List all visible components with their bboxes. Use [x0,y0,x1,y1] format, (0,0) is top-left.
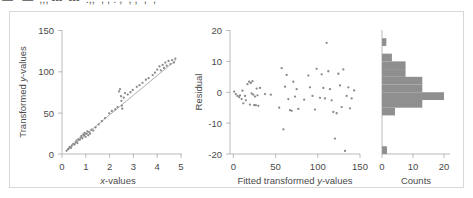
histogram-bar [382,85,422,93]
y-tick-label: 10 [211,56,222,67]
data-point [278,107,280,109]
data-point [314,108,316,110]
histogram-bar [382,54,392,62]
data-point [73,143,75,145]
data-point [326,42,328,44]
data-point [138,84,140,86]
x-tick-label: 5 [178,161,183,172]
data-point [332,111,334,113]
data-point [235,93,237,95]
data-point [92,129,94,131]
x-tick-label: 0 [59,161,64,172]
panel-transformed-fit: 150 100 50 0 0 1 2 3 4 [10,12,188,189]
data-point [264,93,266,95]
data-point [161,64,163,66]
data-point [87,134,89,136]
data-point [316,68,318,70]
data-point [173,61,175,63]
data-point [351,97,353,99]
data-point [118,90,120,92]
histogram-bar [382,100,422,108]
x-tick-label: 4 [155,161,160,172]
scatter-marks-residual [233,42,355,152]
data-point [287,98,289,100]
data-point [291,110,293,112]
data-point [307,74,309,76]
data-point [129,91,131,93]
data-point [116,106,118,108]
data-point [120,100,122,102]
data-point [339,84,341,86]
x-tick-label: 10 [408,161,419,172]
data-point [239,94,241,96]
x-tick-label: 50 [270,161,281,172]
scatter-marks-and-fit [65,57,176,152]
data-point [101,120,103,122]
x-tick-label: 150 [352,161,368,172]
histogram-bar [382,108,395,116]
data-point [342,68,344,70]
y-axis-ticks: 150 100 50 0 [38,25,62,160]
data-point [341,106,343,108]
data-point [347,86,349,88]
data-point [242,102,244,104]
figure-frame: 150 100 50 0 0 1 2 3 4 [9,11,464,188]
data-point [296,88,298,90]
histogram-bar [382,92,444,100]
x-axis-ticks: 0 1 2 3 4 5 [59,154,183,172]
panel-histogram: 0 10 20 Counts [368,12,463,189]
scatter-plot-transformed: 150 100 50 0 0 1 2 3 4 [10,12,188,189]
data-point [141,82,143,84]
histogram-bar [382,61,406,69]
y-tick-label: 50 [43,108,54,119]
data-point [257,105,259,107]
data-point [241,90,243,92]
data-point [166,65,168,67]
data-point [270,94,272,96]
data-point [147,77,149,79]
data-point [331,99,333,101]
data-point [334,137,336,139]
data-point [329,88,331,90]
data-point [259,87,261,89]
data-point [241,98,243,100]
y-tick-label: -20 [208,149,222,160]
data-point [346,95,348,97]
data-point [349,107,351,109]
x-tick-label: 3 [131,161,136,172]
data-point [297,108,299,110]
data-point [76,142,78,144]
data-point [294,95,296,97]
data-point [303,99,305,101]
y-tick-label: 0 [217,87,222,98]
data-point [246,83,248,85]
y-tick-label: 20 [211,25,222,36]
x-tick-label: 20 [439,161,450,172]
clipped-text-strip: — — ,,, --- --- .,, , , . , , , , , [0,0,473,9]
data-point [281,67,283,69]
data-point [81,137,83,139]
x-axis-ticks: 0 10 20 [379,154,449,172]
histogram-bar [382,38,386,46]
data-point [336,112,338,114]
data-point [282,128,284,130]
histogram-bar [382,69,406,77]
data-point [80,135,82,137]
histogram-bar [382,77,422,85]
y-axis-label: Transformed y-values [17,46,28,138]
data-point [319,97,321,99]
data-point [284,86,286,88]
data-point [252,94,254,96]
data-point [324,97,326,99]
data-point [309,86,311,88]
data-point [94,126,96,128]
data-point [121,108,123,110]
data-point [124,92,126,94]
data-point [79,139,81,141]
data-point [321,73,323,75]
data-point [163,67,165,69]
data-point [121,104,123,106]
data-point [160,69,162,71]
x-tick-label: 2 [107,161,112,172]
histogram-bars [382,38,444,154]
